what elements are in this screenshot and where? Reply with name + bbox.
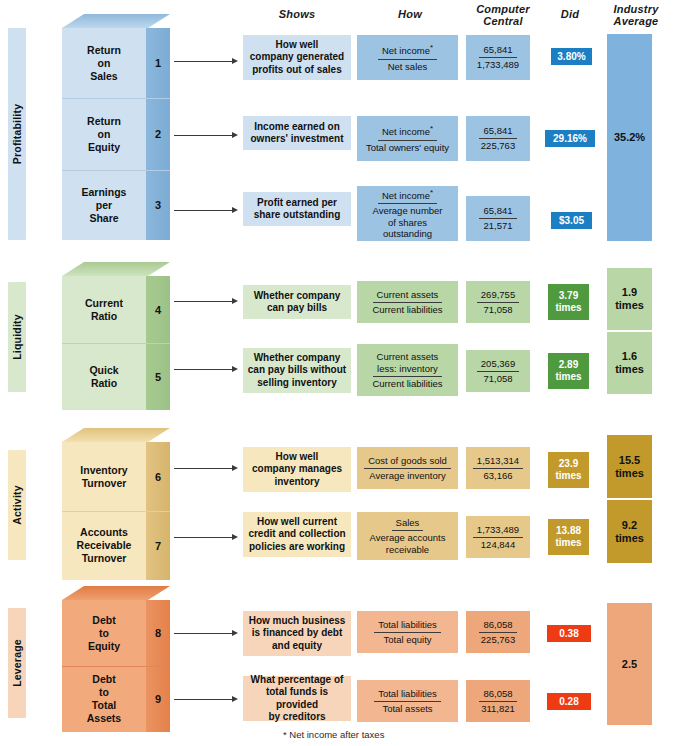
how-box-2: Net income* Total owners' equity: [357, 116, 458, 161]
ratio-name-line: Total: [65, 699, 143, 712]
column-header-industry-average: Industry Average: [600, 3, 672, 27]
ratio-name-line: Sales: [65, 70, 143, 83]
shows-line: by creditors: [268, 711, 325, 724]
formula-numerator: Total liabilities: [374, 619, 441, 633]
formula-numerator: Net income*: [378, 42, 437, 59]
industry-average-value: 15.5: [619, 454, 640, 467]
ratio-name: Inventory Turnover: [62, 464, 146, 490]
how-box-7: Sales Average accounts receivable: [357, 512, 458, 560]
cc-denominator: 124,844: [477, 538, 519, 551]
industry-average-value: 35.2%: [614, 131, 645, 144]
industry-average-value: 1.9: [622, 286, 637, 299]
did-value: 13.88: [556, 525, 581, 537]
formula-denominator: Average accounts receivable: [366, 531, 450, 555]
shows-box-5: Whether company can pay bills without se…: [243, 348, 351, 393]
cc-numerator: 65,841: [479, 125, 516, 139]
did-value: 2.89: [559, 359, 578, 371]
ratio-cube-row-6: Inventory Turnover 6: [62, 442, 170, 511]
ratio-name-line: Assets: [65, 712, 143, 725]
formula-denominator: Total equity: [379, 633, 435, 646]
ratio-name-line: Earnings: [65, 186, 143, 199]
how-box-1: Net income* Net sales: [357, 35, 458, 80]
cc-denominator: 71,058: [479, 303, 516, 316]
cc-numerator: 86,058: [479, 619, 516, 633]
formula-denominator: Total owners' equity: [362, 141, 453, 154]
ratio-cube-row-8: Debt to Equity 8: [62, 600, 170, 666]
formula-denominator-line: outstanding: [372, 228, 442, 240]
did-badge-4: 3.79 times: [548, 284, 589, 320]
computer-central-box-3: 65,841 21,571: [466, 196, 530, 241]
ratio-number: 8: [146, 627, 170, 639]
cc-numerator: 65,841: [479, 44, 516, 58]
computer-central-box-4: 269,755 71,058: [466, 281, 530, 323]
ratio-name-line: to: [65, 627, 143, 640]
shows-line: Profit earned per: [257, 197, 337, 210]
shows-line: company generated: [250, 51, 344, 64]
cc-numerator: 1,513,314: [473, 455, 523, 469]
industry-average-unit: times: [615, 532, 644, 545]
shows-line: selling inventory: [257, 377, 336, 390]
industry-average-bar-4: 1.9 times: [607, 268, 652, 330]
arrow-ratio-8: [174, 629, 238, 638]
industry-average-unit: times: [615, 467, 644, 480]
ratio-cube-leverage: Debt to Equity 8 Debt to Total Assets 9: [62, 586, 170, 732]
shows-line: total funds is provided: [247, 686, 347, 711]
how-box-8: Total liabilities Total equity: [357, 611, 458, 653]
ratio-number: 7: [146, 540, 170, 552]
ratio-cube-activity: Inventory Turnover 6 Accounts Receivable…: [62, 428, 170, 580]
category-label-liquidity-text: Liquidity: [11, 314, 23, 360]
ratio-cube-row-4: Current Ratio 4: [62, 276, 170, 343]
shows-line: share outstanding: [254, 209, 341, 222]
shows-box-6: How well company manages inventory: [243, 447, 351, 492]
formula-denominator: Average number of shares outstanding: [368, 204, 446, 240]
ratio-number: 9: [146, 693, 170, 705]
formula-numerator-line: Current assets: [377, 351, 439, 363]
industry-average-bar-leverage: 2.5: [607, 603, 652, 725]
arrow-ratio-2: [174, 131, 238, 140]
formula-denominator: Average inventory: [365, 469, 449, 482]
cc-denominator: 63,166: [479, 469, 516, 482]
ratio-cube-row-7: Accounts Receivable Turnover 7: [62, 511, 170, 580]
industry-average-value: 9.2: [622, 519, 637, 532]
shows-line: Whether company: [254, 352, 341, 365]
ratio-name: Return on Sales: [62, 44, 146, 83]
formula-numerator-line: less: inventory: [377, 363, 439, 375]
industry-average-bar-5: 1.6 times: [607, 332, 652, 394]
formula-denominator: Net sales: [384, 60, 432, 73]
cc-numerator: 205,369: [477, 358, 519, 372]
did-badge-2: 29.16%: [545, 130, 595, 147]
how-box-4: Current assets Current liabilities: [357, 281, 458, 323]
computer-central-box-8: 86,058 225,763: [466, 611, 530, 653]
column-header-did: Did: [535, 8, 605, 20]
ratio-name: Return on Equity: [62, 115, 146, 154]
did-unit: times: [555, 537, 581, 549]
did-unit: times: [555, 371, 581, 383]
ratio-name: Quick Ratio: [62, 364, 146, 390]
ratio-name: Accounts Receivable Turnover: [62, 526, 146, 565]
category-label-liquidity: Liquidity: [8, 282, 26, 392]
did-unit: times: [555, 302, 581, 314]
industry-average-line2: Average: [600, 15, 672, 27]
ratio-name-line: Return: [65, 44, 143, 57]
computer-central-box-5: 205,369 71,058: [466, 350, 530, 392]
footnote: * Net income after taxes: [283, 729, 384, 740]
cc-denominator: 311,821: [477, 702, 519, 715]
did-badge-3: $3.05: [551, 212, 592, 229]
ratio-cube-row-1: Return on Sales 1: [62, 28, 170, 98]
cube-body: Debt to Equity 8 Debt to Total Assets 9: [62, 600, 170, 732]
shows-line: credit and collection: [248, 528, 345, 541]
cc-numerator: 1,733,489: [473, 524, 523, 538]
shows-line: policies are working: [249, 541, 345, 554]
arrow-ratio-7: [174, 533, 238, 542]
shows-box-3: Profit earned per share outstanding: [243, 192, 351, 226]
computer-central-box-2: 65,841 225,763: [466, 116, 530, 161]
ratio-number: 5: [146, 371, 170, 383]
industry-average-bar-profitability: 35.2%: [607, 34, 652, 241]
ratio-name-line: Equity: [65, 141, 143, 154]
computer-central-box-1: 65,841 1,733,489: [466, 35, 530, 80]
computer-central-line1: Computer: [463, 3, 543, 15]
category-label-profitability-text: Profitability: [11, 104, 23, 164]
ratio-cube-row-2: Return on Equity 2: [62, 98, 170, 170]
ratio-name-line: Return: [65, 115, 143, 128]
formula-numerator: Total liabilities: [374, 688, 441, 702]
